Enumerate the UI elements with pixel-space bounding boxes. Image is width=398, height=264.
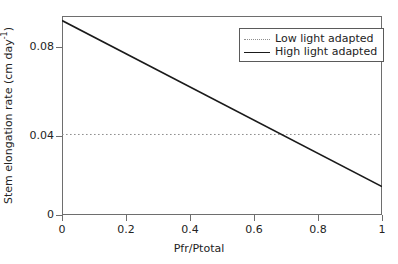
x-tick-label-4: 0.8 (309, 224, 327, 236)
y-tick-label-2: 0.08 (30, 41, 55, 53)
y-tick-label-0: 0 (47, 209, 54, 221)
x-tick-mark-5 (382, 215, 383, 221)
chart-figure: 0 0.04 0.08 0 0.2 0.4 0.6 0.8 1 Pfr/Ptot… (0, 0, 398, 264)
x-tick-mark-2 (190, 215, 191, 221)
x-tick-mark-1 (126, 215, 127, 221)
y-axis-title-tail: ) (2, 27, 15, 31)
x-axis-title: Pfr/Ptotal (0, 243, 398, 255)
legend-label-low-light-adapted: Low light adapted (275, 33, 374, 45)
x-tick-label-2: 0.4 (181, 224, 199, 236)
legend-dotted-line-icon (244, 34, 270, 44)
y-axis-title-exponent: -1 (0, 31, 9, 39)
x-tick-mark-0 (62, 215, 63, 221)
x-tick-label-5: 1 (379, 224, 386, 236)
y-tick-label-1: 0.04 (30, 130, 55, 142)
x-tick-label-3: 0.6 (245, 224, 263, 236)
legend-item-low-light-adapted: Low light adapted (244, 32, 377, 45)
x-tick-label-0: 0 (59, 224, 66, 236)
x-tick-mark-3 (254, 215, 255, 221)
x-tick-mark-4 (318, 215, 319, 221)
chart-legend: Low light adapted High light adapted (239, 28, 384, 62)
x-tick-label-1: 0.2 (117, 224, 135, 236)
legend-solid-line-icon (244, 47, 270, 57)
legend-label-high-light-adapted: High light adapted (275, 46, 377, 58)
y-axis-title-main: Stem elongation rate (cm day (2, 39, 15, 204)
legend-item-high-light-adapted: High light adapted (244, 45, 377, 58)
y-axis-title: Stem elongation rate (cm day-1) (2, 16, 16, 215)
